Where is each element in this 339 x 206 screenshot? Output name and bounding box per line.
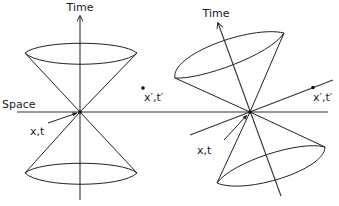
right-other-event-point	[311, 86, 315, 90]
left-event-point	[78, 110, 82, 114]
left-other-event-label: x′,t′	[144, 91, 164, 104]
spacetime-diagram: Time Space x,t x′,t′ Time	[0, 0, 339, 206]
left-other-event-point	[141, 86, 145, 90]
left-event-pointer-arrow	[48, 113, 77, 123]
left-light-cone-panel: Time Space x,t x′,t′	[2, 1, 170, 200]
right-time-axis	[218, 23, 281, 196]
right-other-event-label: x′,t′	[313, 91, 333, 104]
right-light-cone-panel: Time x,t x′,t′	[170, 7, 333, 196]
right-future-light-cone	[175, 32, 284, 112]
right-time-label: Time	[202, 7, 230, 20]
left-future-light-cone	[25, 43, 137, 112]
right-past-light-cone	[217, 112, 325, 186]
left-event-label: x,t	[30, 125, 45, 138]
right-event-pointer-arrow	[224, 115, 247, 140]
right-event-point	[248, 110, 252, 114]
left-past-light-cone	[25, 112, 137, 184]
left-time-label: Time	[66, 1, 94, 14]
right-event-label: x,t	[197, 144, 212, 157]
left-space-label: Space	[2, 98, 36, 111]
